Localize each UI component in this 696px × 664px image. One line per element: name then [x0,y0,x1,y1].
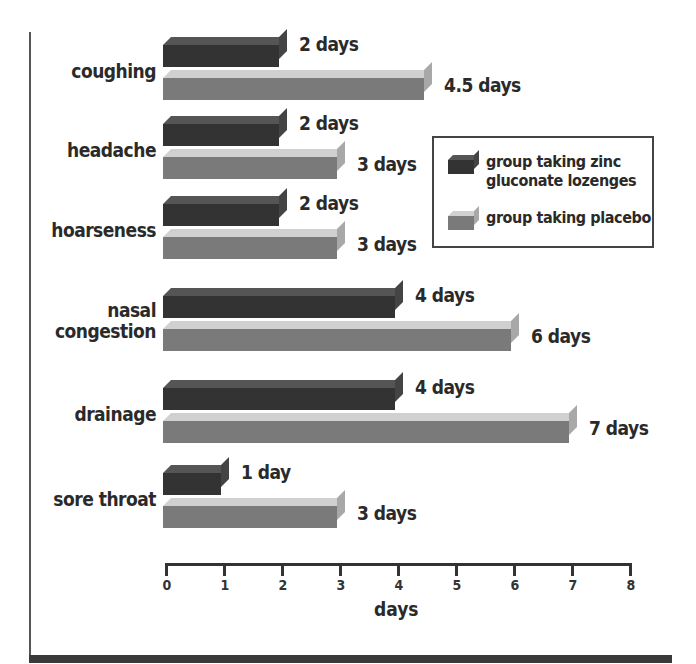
category-label-line: drainage [74,404,156,425]
x-tick-label: 0 [157,577,177,593]
value-label-zinc: 2 days [299,112,358,134]
bar-zinc [163,204,279,226]
legend: group taking zinc gluconate lozenges gro… [432,136,654,248]
placebo-swatch-icon [448,216,478,230]
value-label-placebo: 3 days [357,233,416,255]
bar-zinc [163,473,221,495]
bar-zinc [163,45,279,67]
bar-zinc [163,296,395,318]
x-tick-label: 2 [273,577,293,593]
value-label-zinc: 4 days [415,284,474,306]
x-tick-label: 7 [563,577,583,593]
category-label: nasalcongestion [55,300,156,342]
x-tick-label: 6 [505,577,525,593]
x-tick-mark [629,563,632,576]
category-label-line: nasal [55,300,156,321]
bar-zinc [163,388,395,410]
legend-item-zinc: group taking zinc gluconate lozenges [448,152,636,190]
value-label-zinc: 2 days [299,33,358,55]
legend-item-placebo: group taking placebo [448,208,651,230]
category-label: drainage [74,404,156,425]
x-tick-mark [513,563,516,576]
frame-left-border [29,32,31,656]
value-label-zinc: 1 day [241,461,291,483]
x-tick-mark [281,563,284,576]
legend-zinc-line1: group taking zinc [486,152,636,171]
category-label-line: hoarseness [51,220,156,241]
category-label-line: coughing [71,61,156,82]
x-tick-mark [165,563,168,576]
legend-zinc-line2: gluconate lozenges [486,171,636,190]
category-label: coughing [71,61,156,82]
x-tick-label: 1 [215,577,235,593]
x-tick-mark [397,563,400,576]
x-tick-label: 3 [331,577,351,593]
x-tick-label: 5 [447,577,467,593]
category-label-line: headache [67,140,156,161]
value-label-placebo: 7 days [589,417,648,439]
frame-bottom-border [29,655,672,663]
x-tick-label: 8 [621,577,641,593]
bar-placebo [163,237,337,259]
x-tick-mark [339,563,342,576]
bar-placebo [163,78,424,100]
value-label-placebo: 3 days [357,153,416,175]
legend-label-placebo: group taking placebo [486,208,651,227]
x-axis-title: days [374,598,419,620]
bar-placebo [163,329,511,351]
category-label-line: congestion [55,321,156,342]
legend-label-zinc: group taking zinc gluconate lozenges [486,152,636,190]
category-label: hoarseness [51,220,156,241]
value-label-placebo: 6 days [531,325,590,347]
x-tick-mark [571,563,574,576]
value-label-zinc: 4 days [415,376,474,398]
zinc-swatch-icon [448,160,478,174]
category-label-line: sore throat [53,489,156,510]
bar-zinc [163,124,279,146]
value-label-placebo: 4.5 days [444,74,521,96]
value-label-zinc: 2 days [299,192,358,214]
value-label-placebo: 3 days [357,502,416,524]
bar-placebo [163,421,569,443]
bar-placebo [163,157,337,179]
category-label: headache [67,140,156,161]
category-label: sore throat [53,489,156,510]
x-tick-label: 4 [389,577,409,593]
x-tick-mark [223,563,226,576]
bar-placebo [163,506,337,528]
x-tick-mark [455,563,458,576]
